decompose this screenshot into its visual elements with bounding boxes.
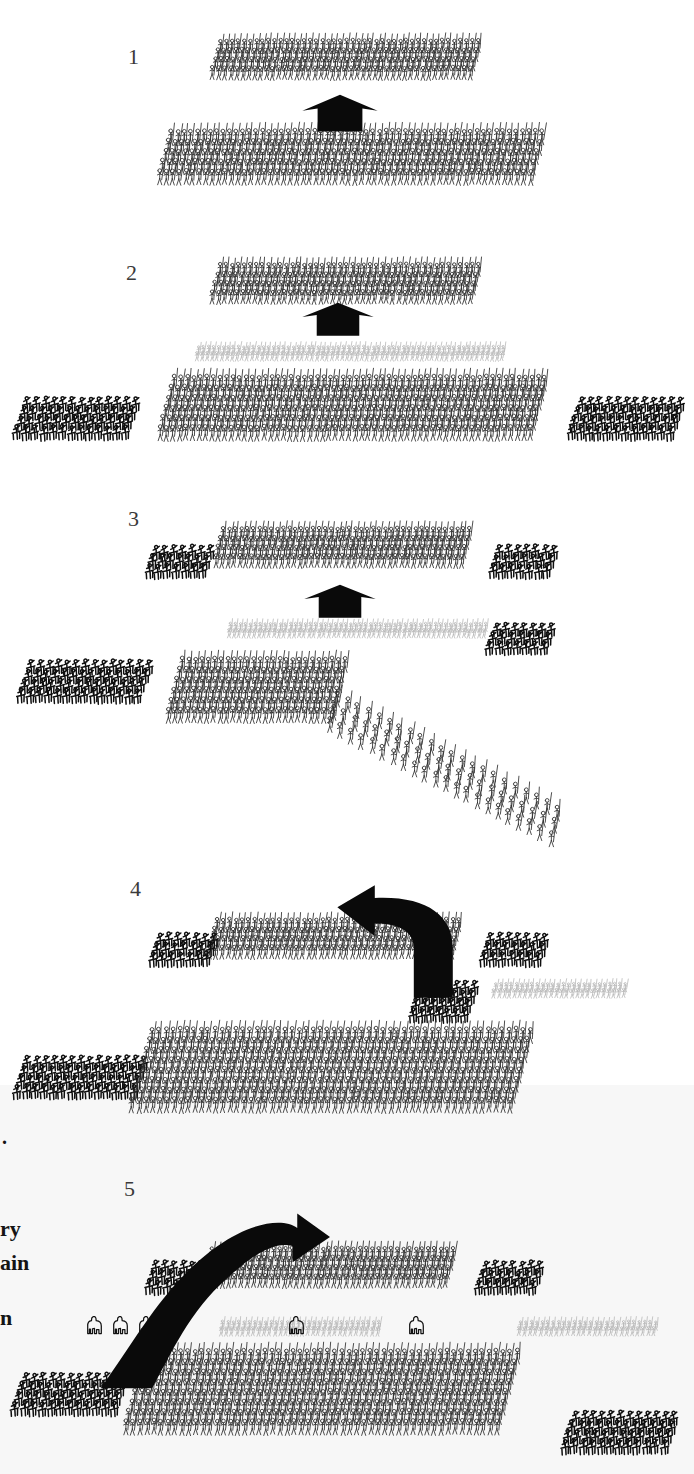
- unit-light-infantry-skirmishers: [487, 978, 639, 1010]
- unit-war-elephants: [406, 1312, 427, 1336]
- unit-light-infantry-skirmishers: [190, 341, 517, 373]
- panel-number-4: 4: [130, 878, 141, 900]
- unit-cavalry: [12, 655, 170, 719]
- panel-number-1: 1: [128, 46, 139, 68]
- unit-cavalry: [484, 540, 575, 595]
- margin-text-fragment: n: [0, 1305, 12, 1331]
- unit-cavalry: [140, 540, 231, 595]
- unit-heavy-infantry: [205, 34, 494, 95]
- margin-text-fragment: ain: [0, 1250, 29, 1276]
- unit-heavy-infantry: [152, 370, 562, 457]
- unit-heavy-infantry: [208, 522, 485, 583]
- unit-cavalry: [556, 1406, 694, 1470]
- unit-heavy-infantry: [124, 1022, 548, 1129]
- advance-arrow: [300, 302, 376, 336]
- unit-cavalry: [470, 1256, 561, 1311]
- battle-phase-figure: .ryainn12345: [0, 0, 694, 1474]
- unit-cavalry: [144, 928, 235, 983]
- unit-cavalry: [562, 392, 694, 456]
- unit-cavalry: [481, 618, 572, 670]
- margin-text-fragment: ry: [0, 1216, 21, 1242]
- unit-cavalry: [475, 928, 566, 983]
- unit-light-infantry-skirmishers: [512, 1316, 669, 1348]
- margin-text-fragment: .: [2, 1126, 7, 1149]
- panel-number-2: 2: [126, 262, 137, 284]
- panel-number-5: 5: [124, 1178, 135, 1200]
- panel-number-3: 3: [128, 508, 139, 530]
- unit-heavy-infantry: [152, 124, 559, 201]
- unit-light-infantry-skirmishers: [222, 618, 499, 650]
- cavalry-flanking-arrow: [328, 884, 484, 1000]
- advance-arrow: [302, 584, 378, 618]
- cavalry-sweep-arrow: [96, 1210, 330, 1390]
- unit-heavy-infantry: [322, 686, 579, 871]
- advance-arrow: [300, 94, 380, 132]
- unit-cavalry: [8, 392, 157, 456]
